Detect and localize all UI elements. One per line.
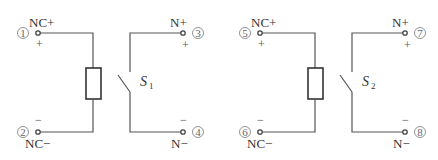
- label-n-plus: N+: [392, 15, 409, 30]
- circuit-1: NC+ 1 + − 2 NC− N+ 3 + − 4 N− S 1: [18, 15, 204, 151]
- wire-nc-minus: [40, 99, 93, 132]
- relay-coil: [86, 68, 101, 99]
- wire-n-minus: [352, 92, 403, 132]
- wire-nc-plus: [40, 33, 93, 68]
- wire-nc-minus: [262, 99, 315, 132]
- terminal-4: [181, 130, 185, 134]
- polarity-minus: −: [257, 113, 264, 127]
- label-nc-minus: NC−: [25, 136, 50, 151]
- terminal-number-3: 3: [195, 27, 201, 39]
- wire-n-minus: [130, 92, 181, 132]
- terminal-number-4: 4: [195, 126, 201, 138]
- polarity-plus: +: [36, 37, 43, 51]
- terminal-1: [36, 31, 40, 35]
- terminal-number-7: 7: [417, 27, 423, 39]
- label-n-plus: N+: [170, 15, 187, 30]
- polarity-minus: −: [402, 113, 409, 127]
- label-n-minus: N−: [393, 136, 410, 151]
- terminal-number-5: 5: [242, 27, 248, 39]
- terminal-2: [36, 130, 40, 134]
- label-nc-plus: NC+: [29, 15, 54, 30]
- label-nc-minus: NC−: [247, 136, 272, 151]
- switch-label: S: [140, 74, 147, 89]
- polarity-plus: +: [404, 38, 411, 52]
- polarity-minus: −: [180, 113, 187, 127]
- relay-coil: [308, 68, 323, 99]
- terminal-3: [181, 31, 185, 35]
- switch-subscript: 2: [371, 81, 376, 91]
- wire-nc-plus: [262, 33, 315, 68]
- terminal-6: [258, 130, 262, 134]
- terminal-7: [403, 31, 407, 35]
- terminal-8: [403, 130, 407, 134]
- polarity-plus: +: [258, 37, 265, 51]
- relay-circuit-diagram: NC+ 1 + − 2 NC− N+ 3 + − 4 N− S 1 NC+ 5 …: [0, 0, 438, 160]
- label-n-minus: N−: [171, 136, 188, 151]
- switch-contact: [340, 75, 352, 92]
- polarity-plus: +: [182, 38, 189, 52]
- circuit-2: NC+ 5 + − 6 NC− N+ 7 + − 8 N− S 2: [240, 15, 426, 151]
- wire-n-plus: [352, 33, 403, 72]
- terminal-number-1: 1: [20, 27, 26, 39]
- label-nc-plus: NC+: [251, 15, 276, 30]
- wire-n-plus: [130, 33, 181, 72]
- terminal-5: [258, 31, 262, 35]
- switch-subscript: 1: [149, 81, 154, 91]
- switch-contact: [118, 75, 130, 92]
- terminal-number-8: 8: [417, 126, 423, 138]
- polarity-minus: −: [35, 113, 42, 127]
- switch-label: S: [362, 74, 369, 89]
